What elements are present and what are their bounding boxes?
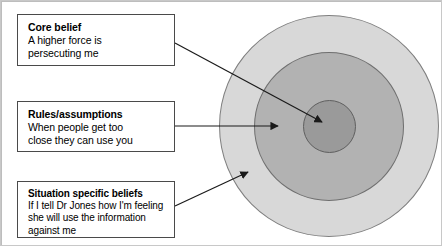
box-core-belief-line-1: A higher force is [28, 34, 167, 47]
box-situation-specific-beliefs: Situation specific beliefs If I tell Dr … [17, 181, 175, 238]
box-rules-assumptions-line-1: When people get too [28, 121, 167, 134]
diagram-canvas: Core belief A higher force is persecutin… [0, 0, 442, 246]
box-rules-assumptions-line-2: close they can use you [28, 134, 167, 147]
box-rules-assumptions: Rules/assumptions When people get too cl… [17, 101, 175, 152]
box-situation-specific-beliefs-line-2: she will use the information [28, 212, 167, 224]
box-situation-specific-beliefs-line-1: If I tell Dr Jones how I'm feeling [28, 200, 167, 212]
box-situation-specific-beliefs-title: Situation specific beliefs [28, 188, 167, 200]
box-core-belief: Core belief A higher force is persecutin… [17, 14, 175, 66]
box-core-belief-line-2: persecuting me [28, 47, 167, 60]
box-core-belief-title: Core belief [28, 21, 167, 34]
box-situation-specific-beliefs-line-3: against me [28, 225, 167, 237]
inner-circle-core-belief [303, 100, 356, 153]
box-rules-assumptions-title: Rules/assumptions [28, 108, 167, 121]
